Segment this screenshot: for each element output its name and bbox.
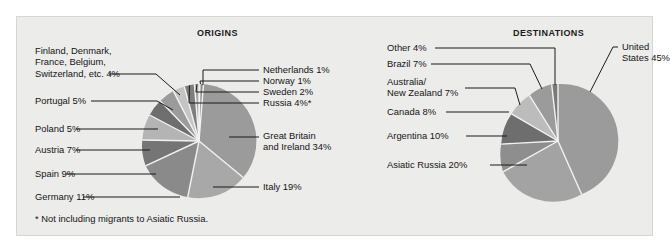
destinations-label-other: Other 4% bbox=[387, 42, 427, 53]
destinations-pie-svg bbox=[17, 17, 654, 237]
destinations-label-canada: Canada 8% bbox=[387, 106, 436, 117]
destinations-label-australia-nz: Australia/ New Zealand 7% bbox=[387, 76, 458, 99]
destinations-label-brazil: Brazil 7% bbox=[387, 58, 427, 69]
destinations-label-anz-line2: New Zealand 7% bbox=[387, 87, 458, 98]
destinations-label-united-states: United States 45% bbox=[622, 41, 670, 64]
destinations-label-asiatic-russia: Asiatic Russia 20% bbox=[387, 159, 467, 170]
destinations-label-us-line1: United bbox=[622, 41, 649, 52]
destinations-label-us-line2: States 45% bbox=[622, 52, 670, 63]
chart-panel: ORIGINS bbox=[16, 16, 653, 236]
destinations-label-anz-line1: Australia/ bbox=[387, 76, 426, 87]
destinations-label-argentina: Argentina 10% bbox=[387, 130, 449, 141]
